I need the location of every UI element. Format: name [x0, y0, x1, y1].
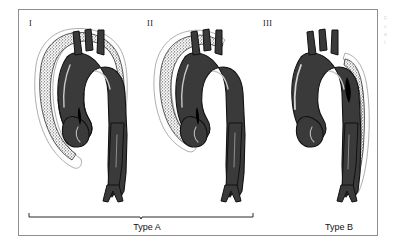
- figure-frame: I: [18, 9, 378, 236]
- type-a-bracket: [28, 212, 254, 220]
- panel-type-iii: III: [257, 15, 377, 205]
- panel-type-i: I: [23, 15, 143, 205]
- aorta-illustration-ii: [141, 15, 261, 205]
- type-b-label: Type B: [301, 221, 377, 233]
- edge-caption-line-2: c: [384, 22, 397, 30]
- edge-caption-line-4: t: [384, 38, 397, 46]
- aorta-body-ii: [176, 29, 245, 202]
- edge-caption-sliver: F c a t: [384, 14, 397, 48]
- aorta-illustration-i: [23, 15, 143, 205]
- edge-caption-line-1: F: [384, 14, 397, 22]
- aorta-illustration-iii: [257, 15, 377, 205]
- edge-caption-line-3: a: [384, 30, 397, 38]
- type-a-label: Type A: [109, 221, 185, 233]
- panel-type-ii: II: [141, 15, 261, 205]
